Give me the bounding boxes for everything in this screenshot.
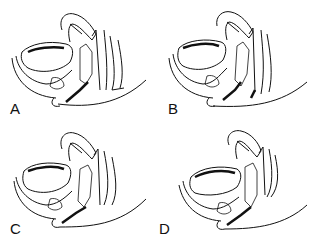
panel-a: A — [0, 0, 161, 121]
pelvic-anatomy-drawing-b — [161, 0, 322, 121]
panel-b: B — [161, 0, 322, 121]
pelvic-anatomy-drawing-a — [0, 0, 161, 121]
panel-c: C — [0, 121, 161, 242]
panel-label-b: B — [168, 101, 178, 116]
pelvic-anatomy-drawing-d — [161, 121, 322, 242]
panel-label-c: C — [10, 221, 21, 236]
panel-label-a: A — [10, 101, 20, 116]
pelvic-anatomy-drawing-c — [0, 121, 161, 242]
panel-label-d: D — [159, 221, 170, 236]
panel-d: D — [161, 121, 322, 242]
